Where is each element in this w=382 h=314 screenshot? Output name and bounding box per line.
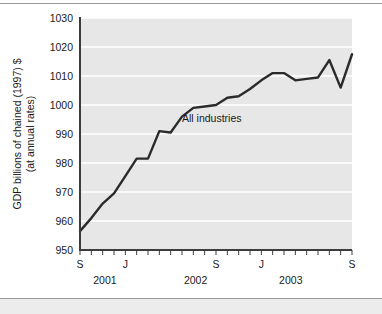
chart-canvas: 9509609709809901000101010201030 SJSJS200…: [0, 8, 382, 296]
y-axis-ticks-group: 9509609709809901000101010201030: [50, 12, 74, 256]
annotations-group: All industries: [182, 112, 242, 124]
y-axis-title: GDP billions of chained (1997) $(at annu…: [11, 58, 36, 209]
y-tick-label-1030: 1030: [50, 12, 74, 24]
x-tick-label-12: S: [212, 258, 219, 270]
y-tick-label-1020: 1020: [50, 41, 74, 53]
y-tick-label-1000: 1000: [50, 99, 74, 111]
chart-figure: 9509609709809901000101010201030 SJSJS200…: [0, 0, 382, 314]
y-tick-label-950: 950: [55, 244, 73, 256]
x-axis-ticks-group: SJSJS200120022003: [76, 250, 355, 286]
x-tick-label-0: S: [76, 258, 83, 270]
x-axis-year-label-2003: 2003: [279, 274, 303, 286]
y-tick-label-970: 970: [55, 186, 73, 198]
x-tick-label-4: J: [123, 258, 128, 270]
x-axis-year-label-2001: 2001: [93, 274, 117, 286]
x-axis-year-label-2002: 2002: [184, 274, 208, 286]
y-tick-label-1010: 1010: [50, 70, 74, 82]
y-axis-title-line-1: GDP billions of chained (1997) $: [11, 58, 23, 209]
gdp-line-chart: 9509609709809901000101010201030 SJSJS200…: [0, 8, 382, 296]
y-tick-label-990: 990: [55, 128, 73, 140]
y-axis-title-line-2: (at annual rates): [24, 96, 36, 172]
y-tick-label-980: 980: [55, 157, 73, 169]
footer-band: [0, 299, 382, 314]
axis-titles-group: GDP billions of chained (1997) $(at annu…: [11, 58, 36, 209]
x-tick-label-24: S: [348, 258, 355, 270]
top-divider-rule: [0, 3, 382, 4]
x-tick-label-16: J: [259, 258, 264, 270]
y-tick-label-960: 960: [55, 215, 73, 227]
series-annotation-1: All industries: [182, 112, 242, 124]
